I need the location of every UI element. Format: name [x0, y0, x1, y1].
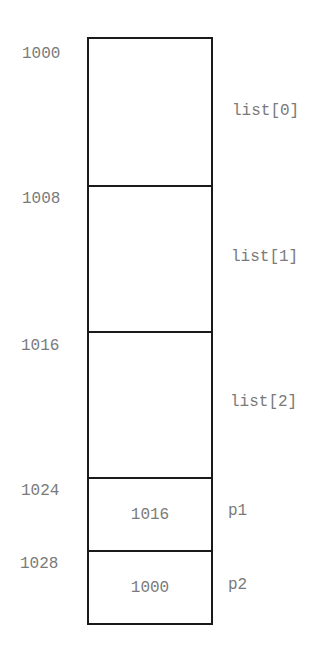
memory-cell-list1 — [89, 185, 211, 331]
address-label: 1028 — [20, 555, 58, 573]
memory-cell-p1: 1016 — [89, 477, 211, 550]
address-label: 1024 — [21, 482, 59, 500]
memory-block: 1016 1000 — [87, 37, 213, 625]
variable-label: list[1] — [231, 248, 298, 266]
variable-label: list[2] — [230, 393, 297, 411]
memory-cell-p2: 1000 — [89, 550, 211, 623]
memory-cell-list0 — [89, 39, 211, 185]
cell-value: 1000 — [131, 579, 169, 597]
address-label: 1016 — [21, 337, 59, 355]
variable-label: list[0] — [232, 102, 299, 120]
variable-label: p2 — [228, 576, 247, 594]
memory-cell-list2 — [89, 331, 211, 477]
address-label: 1008 — [22, 190, 60, 208]
address-label: 1000 — [22, 45, 60, 63]
cell-value: 1016 — [131, 506, 169, 524]
variable-label: p1 — [228, 502, 247, 520]
